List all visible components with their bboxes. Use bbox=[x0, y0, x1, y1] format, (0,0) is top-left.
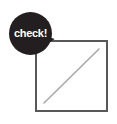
illustration-canvas: check! bbox=[0, 0, 117, 124]
check-speech-bubble: check! bbox=[9, 12, 52, 55]
speech-bubble-label: check! bbox=[9, 12, 52, 55]
